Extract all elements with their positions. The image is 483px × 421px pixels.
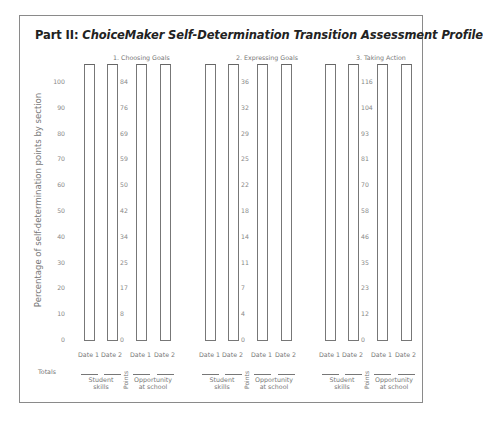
points-tick-label: 7 <box>241 284 245 291</box>
total-blank-field[interactable] <box>81 374 98 375</box>
opportunity-at-school-label: Opportunityat school <box>373 376 415 390</box>
label-line: Opportunity <box>373 376 415 383</box>
y-tick-label: 100 <box>45 78 65 85</box>
label-line: skills <box>327 383 357 390</box>
points-tick-label: 12 <box>361 310 369 317</box>
date-label: Date 2 <box>342 351 363 358</box>
points-tick-label: 69 <box>120 130 128 137</box>
points-label: Points <box>363 371 370 389</box>
label-line: at school <box>253 383 295 390</box>
points-tick-label: 4 <box>241 310 245 317</box>
total-blank-field[interactable] <box>374 374 391 375</box>
label-line: at school <box>132 383 174 390</box>
total-blank-field[interactable] <box>345 374 362 375</box>
points-tick-label: 70 <box>361 181 369 188</box>
points-tick-label: 14 <box>241 233 249 240</box>
points-tick-label: 84 <box>120 78 128 85</box>
section-title: 1. Choosing Goals <box>113 54 170 61</box>
score-bar[interactable] <box>401 64 412 341</box>
points-tick-label: 0 <box>361 336 365 343</box>
y-tick-label: 20 <box>45 284 65 291</box>
points-tick-label: 76 <box>120 104 128 111</box>
total-blank-field[interactable] <box>133 374 150 375</box>
points-tick-label: 34 <box>120 233 128 240</box>
points-tick-label: 35 <box>361 259 369 266</box>
points-tick-label: 18 <box>241 207 249 214</box>
score-bar[interactable] <box>84 64 95 341</box>
date-label: Date 1 <box>199 351 220 358</box>
score-bar[interactable] <box>377 64 388 341</box>
points-tick-label: 58 <box>361 207 369 214</box>
y-tick-label: 70 <box>45 155 65 162</box>
score-bar[interactable] <box>160 64 171 341</box>
points-tick-label: 59 <box>120 155 128 162</box>
score-bar[interactable] <box>348 64 359 341</box>
score-bar[interactable] <box>257 64 268 341</box>
title-prefix: Part II: <box>35 28 82 42</box>
label-line: Student <box>327 376 357 383</box>
score-bar[interactable] <box>136 64 147 341</box>
total-blank-field[interactable] <box>225 374 242 375</box>
opportunity-at-school-label: Opportunityat school <box>253 376 295 390</box>
score-bar[interactable] <box>281 64 292 341</box>
points-tick-label: 93 <box>361 130 369 137</box>
date-label: Date 2 <box>275 351 296 358</box>
points-tick-label: 81 <box>361 155 369 162</box>
date-label: Date 1 <box>78 351 99 358</box>
points-tick-label: 23 <box>361 284 369 291</box>
section-title: 3. Taking Action <box>356 54 406 61</box>
points-tick-label: 46 <box>361 233 369 240</box>
points-tick-label: 116 <box>361 78 373 85</box>
y-tick-label: 0 <box>45 336 65 343</box>
label-line: at school <box>373 383 415 390</box>
date-label: Date 1 <box>251 351 272 358</box>
total-blank-field[interactable] <box>254 374 271 375</box>
points-label: Points <box>122 371 129 389</box>
y-tick-label: 10 <box>45 310 65 317</box>
student-skills-label: Studentskills <box>86 376 116 390</box>
total-blank-field[interactable] <box>278 374 295 375</box>
title-italic: ChoiceMaker Self-Determination Transitio… <box>82 28 483 42</box>
y-tick-label: 60 <box>45 181 65 188</box>
total-blank-field[interactable] <box>398 374 415 375</box>
y-tick-label: 50 <box>45 207 65 214</box>
label-line: Student <box>207 376 237 383</box>
total-blank-field[interactable] <box>322 374 339 375</box>
y-tick-label: 40 <box>45 233 65 240</box>
date-label: Date 1 <box>319 351 340 358</box>
date-label: Date 2 <box>154 351 175 358</box>
date-label: Date 2 <box>395 351 416 358</box>
points-tick-label: 8 <box>120 310 124 317</box>
points-tick-label: 0 <box>120 336 124 343</box>
score-bar[interactable] <box>107 64 118 341</box>
score-bar[interactable] <box>228 64 239 341</box>
points-tick-label: 32 <box>241 104 249 111</box>
total-blank-field[interactable] <box>202 374 219 375</box>
points-tick-label: 17 <box>120 284 128 291</box>
points-tick-label: 36 <box>241 78 249 85</box>
y-axis-label: Percentage of self-determination points … <box>33 70 45 330</box>
points-tick-label: 29 <box>241 130 249 137</box>
label-line: Opportunity <box>132 376 174 383</box>
totals-label: Totals <box>38 368 56 375</box>
points-tick-label: 50 <box>120 181 128 188</box>
points-tick-label: 22 <box>241 181 249 188</box>
student-skills-label: Studentskills <box>207 376 237 390</box>
label-line: skills <box>86 383 116 390</box>
score-bar[interactable] <box>325 64 336 341</box>
points-tick-label: 11 <box>241 259 249 266</box>
date-label: Date 2 <box>222 351 243 358</box>
date-label: Date 1 <box>371 351 392 358</box>
total-blank-field[interactable] <box>157 374 174 375</box>
points-tick-label: 104 <box>361 104 373 111</box>
points-tick-label: 42 <box>120 207 128 214</box>
label-line: Opportunity <box>253 376 295 383</box>
total-blank-field[interactable] <box>104 374 121 375</box>
points-tick-label: 25 <box>120 259 128 266</box>
points-label: Points <box>243 371 250 389</box>
student-skills-label: Studentskills <box>327 376 357 390</box>
score-bar[interactable] <box>205 64 216 341</box>
chart-title: Part II: ChoiceMaker Self-Determination … <box>35 28 483 42</box>
points-tick-label: 25 <box>241 155 249 162</box>
date-label: Date 1 <box>130 351 151 358</box>
